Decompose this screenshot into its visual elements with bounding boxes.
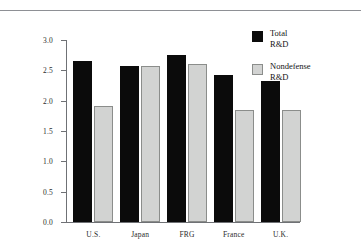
bar-total — [261, 81, 280, 222]
chart-page: 0.00.51.01.52.02.53.0 U.S.JapanFRGFrance… — [0, 0, 361, 251]
x-category-label: France — [223, 230, 245, 239]
y-tick-mark: 0.0 — [61, 222, 66, 223]
y-tick-label: 1.0 — [43, 157, 53, 166]
legend-label-total: Total R&D — [270, 28, 288, 49]
x-category-label: U.K. — [273, 230, 288, 239]
chart-legend: Total R&D Nondefense R&D — [252, 29, 357, 95]
legend-label-nondefense-line1: Nondefense — [270, 61, 311, 71]
y-tick-label: 0.5 — [43, 187, 53, 196]
bar-nondefense — [94, 106, 113, 222]
x-category-label: FRG — [179, 230, 194, 239]
legend-swatch-nondefense-icon — [252, 64, 263, 75]
bar-nondefense — [141, 66, 160, 222]
bar-nondefense — [188, 64, 207, 222]
y-tick-label: 0.0 — [43, 218, 53, 227]
y-tick-label: 1.5 — [43, 127, 53, 136]
y-tick-label: 2.5 — [43, 66, 53, 75]
bar-total — [73, 61, 92, 222]
y-tick-label: 2.0 — [43, 96, 53, 105]
bar-total — [214, 75, 233, 222]
legend-label-nondefense-line2: R&D — [270, 72, 311, 83]
legend-label-total-line2: R&D — [270, 39, 288, 50]
bar-total — [120, 66, 139, 222]
bar-group — [167, 40, 207, 222]
top-divider — [0, 10, 361, 11]
x-axis-line — [66, 222, 300, 223]
x-category-label: Japan — [131, 230, 149, 239]
bar-nondefense — [235, 110, 254, 222]
legend-item-nondefense: Nondefense R&D — [252, 62, 357, 84]
legend-label-nondefense: Nondefense R&D — [270, 61, 311, 82]
bar-group — [73, 40, 113, 222]
bar-total — [167, 55, 186, 222]
y-tick-label: 3.0 — [43, 36, 53, 45]
x-category-label: U.S. — [86, 230, 100, 239]
bar-group — [214, 40, 254, 222]
bar-group — [120, 40, 160, 222]
bar-nondefense — [282, 110, 301, 222]
legend-item-total: Total R&D — [252, 29, 357, 51]
legend-swatch-total-icon — [252, 31, 263, 42]
legend-label-total-line1: Total — [270, 28, 287, 38]
